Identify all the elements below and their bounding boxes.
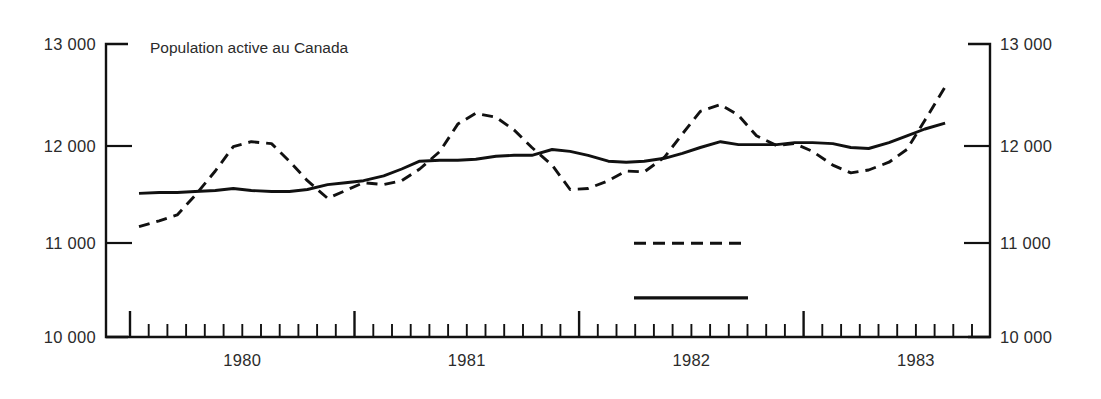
series-line-donnees-brutes	[139, 87, 945, 227]
x-axis-year-labels: 1980198119821983	[223, 351, 935, 369]
legend	[634, 243, 748, 298]
y-tick-right-12000: 12 000	[1000, 137, 1052, 155]
left-axis	[106, 44, 132, 337]
y-tick-left-13000: 13 000	[44, 35, 96, 53]
x-axis-year-label: 1982	[672, 351, 710, 369]
x-axis-year-label: 1983	[897, 351, 935, 369]
y-tick-right-13000: 13 000	[1000, 35, 1052, 53]
y-tick-left-11000: 11 000	[45, 234, 96, 252]
chart-container: 13 000 12 000 11 000 10 000 13 000 12 00…	[0, 0, 1101, 399]
x-axis-ticks	[130, 311, 972, 337]
y-axis-labels-right: 13 000 12 000 11 000 10 000	[1000, 35, 1052, 346]
y-tick-left-10000: 10 000	[44, 328, 96, 346]
y-axis-labels-left: 13 000 12 000 11 000 10 000	[44, 35, 96, 346]
page-title: Population active au Canada	[150, 39, 349, 56]
labour-force-line-chart: 13 000 12 000 11 000 10 000 13 000 12 00…	[0, 0, 1101, 399]
y-tick-left-12000: 12 000	[44, 137, 96, 155]
y-tick-right-10000: 10 000	[1000, 328, 1052, 346]
right-axis	[964, 44, 990, 337]
x-axis-year-label: 1980	[223, 351, 261, 369]
y-tick-right-11000: 11 000	[1000, 234, 1051, 252]
x-axis-year-label: 1981	[448, 351, 486, 369]
